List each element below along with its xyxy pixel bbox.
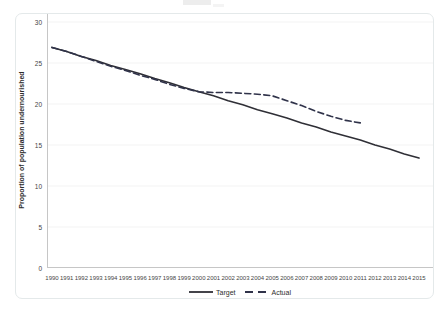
chart-legend: TargetActual — [47, 286, 433, 298]
series-line-target — [52, 47, 419, 158]
x-tick-label-2004: 2004 — [251, 275, 264, 282]
x-tick-label-2000: 2000 — [192, 275, 205, 282]
x-tick-label-2009: 2009 — [324, 275, 337, 282]
x-tick-label-1995: 1995 — [119, 275, 132, 282]
cropped-title-artifact-2 — [213, 4, 224, 7]
x-tick-label-2008: 2008 — [310, 275, 323, 282]
legend-label-actual: Actual — [272, 288, 291, 297]
x-tick-label-1999: 1999 — [177, 275, 190, 282]
x-tick-label-1990: 1990 — [45, 275, 58, 282]
legend-dashed-line-swatch — [245, 289, 269, 295]
y-axis-title: Proportion of population undernourished — [18, 71, 25, 208]
x-tick-label-2012: 2012 — [368, 275, 381, 282]
y-tick-label-0: 0 — [12, 265, 42, 272]
cropped-title-artifact — [183, 0, 211, 5]
x-tick-label-1997: 1997 — [148, 275, 161, 282]
x-tick-label-2006: 2006 — [280, 275, 293, 282]
x-tick-label-1993: 1993 — [89, 275, 102, 282]
x-tick-label-2011: 2011 — [354, 275, 367, 282]
x-tick-label-1991: 1991 — [60, 275, 73, 282]
x-tick-label-2003: 2003 — [236, 275, 249, 282]
line-chart-plot-area — [47, 14, 433, 268]
x-tick-label-2002: 2002 — [221, 275, 234, 282]
y-tick-label-15: 15 — [12, 142, 42, 149]
x-tick-label-1992: 1992 — [75, 275, 88, 282]
x-tick-label-2007: 2007 — [295, 275, 308, 282]
x-tick-label-2015: 2015 — [412, 275, 425, 282]
x-tick-label-2013: 2013 — [383, 275, 396, 282]
legend-item-target: Target — [189, 288, 235, 297]
legend-item-actual: Actual — [245, 288, 291, 297]
series-line-actual — [52, 47, 360, 123]
legend-label-target: Target — [216, 288, 235, 297]
y-tick-label-25: 25 — [12, 60, 42, 67]
y-tick-label-20: 20 — [12, 101, 42, 108]
x-tick-label-1998: 1998 — [163, 275, 176, 282]
y-tick-label-5: 5 — [12, 224, 42, 231]
x-tick-label-2001: 2001 — [207, 275, 220, 282]
legend-solid-line-swatch — [189, 289, 213, 295]
x-tick-label-1996: 1996 — [133, 275, 146, 282]
x-tick-label-2014: 2014 — [398, 275, 411, 282]
x-tick-label-1994: 1994 — [104, 275, 117, 282]
y-tick-label-10: 10 — [12, 183, 42, 190]
y-tick-label-30: 30 — [12, 19, 42, 26]
chart-figure: 051015202530 199019911992199319941995199… — [0, 0, 448, 316]
x-tick-label-2005: 2005 — [266, 275, 279, 282]
x-tick-label-2010: 2010 — [339, 275, 352, 282]
